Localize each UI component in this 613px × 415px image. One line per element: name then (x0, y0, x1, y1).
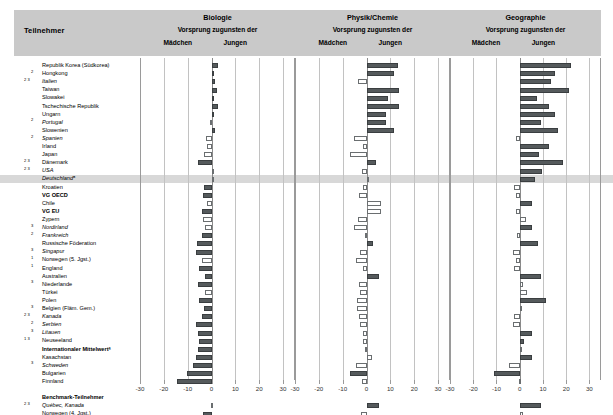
bar (204, 152, 211, 157)
axis-tick-label: -30 (283, 385, 307, 392)
bar (196, 322, 212, 327)
gridline (566, 58, 567, 380)
bar (516, 258, 520, 263)
bar (520, 177, 535, 182)
bar (206, 136, 211, 141)
bar (520, 79, 551, 84)
bar (520, 63, 571, 68)
header-panel-physik-chemie: Physik/ChemieVorsprung zugunsten derMädc… (295, 10, 450, 56)
bar (212, 128, 215, 133)
axis-tick-label: -10 (331, 385, 355, 392)
panel-boys-label: Jungen (379, 39, 402, 46)
row-label: 3Nordirland (0, 223, 140, 231)
row-label-text: Tschechische Republik (42, 102, 99, 110)
row-label-footnote-marker: 2 3 (24, 400, 30, 408)
row-label-text: USA (42, 166, 54, 174)
bar (193, 363, 211, 368)
bar (513, 322, 520, 327)
bar (212, 112, 214, 117)
bar (367, 274, 380, 279)
row-label-text: Frankreich (42, 231, 68, 239)
chart-panel-geographie: -30-20-100102030 (450, 58, 601, 388)
row-label-footnote-marker: 1 (31, 254, 33, 262)
bar (365, 233, 367, 238)
row-label: 2Serbien (0, 320, 140, 328)
bar (212, 79, 216, 84)
bar (199, 266, 211, 271)
bar (357, 306, 367, 311)
bar (212, 88, 217, 93)
row-label-text: Spanien (42, 134, 63, 142)
bar (204, 306, 211, 311)
bar (365, 347, 367, 352)
panel-girls-label: Mädchen (319, 39, 348, 46)
axis-tick (283, 380, 284, 384)
row-label-text: Taiwan (42, 85, 59, 93)
row-label-footnote-marker: 2 (31, 116, 33, 124)
row-label-footnote-marker: 2 3 (24, 157, 30, 165)
gridline (343, 58, 344, 380)
bar (367, 209, 381, 214)
row-label-text: Irland (42, 142, 56, 150)
bar (362, 379, 367, 384)
row-label-text: Slowenien (42, 126, 68, 134)
axis-tick-label: 20 (554, 385, 578, 392)
gridline (259, 58, 260, 380)
bar (367, 63, 398, 68)
bar (367, 403, 380, 408)
bar (367, 71, 394, 76)
bar (520, 274, 541, 279)
bar (520, 144, 550, 149)
row-label-text: Serbien (42, 320, 61, 328)
bar (367, 241, 373, 246)
row-label-text: Finnland (42, 377, 63, 385)
row-label-text: Australien (42, 272, 67, 280)
bar (356, 258, 367, 263)
header-panel-biologie: BiologieVorsprung zugunsten derMädchenJu… (140, 10, 295, 56)
bar (520, 169, 542, 174)
axis-tick (496, 380, 497, 384)
row-label: Slowakei (0, 93, 140, 101)
row-label: Internationaler Mittelwertᵃ (0, 345, 140, 353)
panel-left-border (140, 58, 141, 380)
bar (520, 403, 541, 408)
row-label-text: Deutschlandᵃ (42, 174, 75, 182)
row-label: 2 3Québec, Kanada (0, 401, 140, 409)
bar (354, 136, 367, 141)
bar (520, 112, 555, 117)
bar (212, 169, 214, 174)
row-label-footnote-marker: 2 (31, 68, 33, 76)
bar (212, 71, 215, 76)
row-label-text: Nordirland (42, 223, 68, 231)
row-label-text: Slowakei (42, 93, 64, 101)
row-label-footnote-marker: 2 3 (24, 76, 30, 84)
row-label: 2Portugal (0, 118, 140, 126)
row-label-text: Norwegen (4. Jgst.) (42, 409, 91, 415)
row-label: Benchmark-Teilnehmer (0, 393, 140, 401)
axis-tick (295, 380, 296, 384)
row-label-text: Polen (42, 296, 56, 304)
row-label-text: Benchmark-Teilnehmer (42, 393, 104, 401)
row-label: 3Singapur (0, 247, 140, 255)
row-label-footnote-marker: 2 3 (24, 165, 30, 173)
row-label: Norwegen (4. Jgst.) (0, 409, 140, 415)
gridline (496, 58, 497, 380)
gridline (414, 58, 415, 380)
gridline (164, 58, 165, 380)
panel-left-border (295, 58, 296, 380)
bar (360, 250, 366, 255)
bar (202, 314, 212, 319)
bar (520, 152, 539, 157)
row-label: 2Spanien (0, 134, 140, 142)
axis-tick-label: 10 (223, 385, 247, 392)
axis-tick (319, 380, 320, 384)
panel-boys-label: Jungen (532, 39, 555, 46)
axis-tick-label: 10 (378, 385, 402, 392)
row-label-text: Neuseeland (42, 336, 72, 344)
axis-tick (450, 380, 451, 384)
bar (514, 185, 520, 190)
axis-tick-label: -30 (438, 385, 462, 392)
row-label: 2 3Italien (0, 77, 140, 85)
axis-tick-label: 0 (200, 385, 224, 392)
row-label: Taiwan (0, 85, 140, 93)
